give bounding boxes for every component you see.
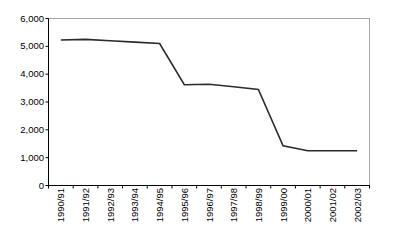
x-axis-tick-label: 1994/95 [155,188,165,222]
x-axis-tick-label: 1999/00 [279,188,289,222]
x-axis-tick-label: 1993/94 [130,188,140,222]
x-axis-tick-label: 1991/92 [81,188,91,222]
x-axis-tick-label: 1997/98 [229,188,239,222]
x-axis-tick-label: 1990/91 [56,188,66,222]
x-axis-tick-labels: 1990/911991/921992/931993/941994/951995/… [0,0,410,246]
x-axis-tick-label: 1992/93 [106,188,116,222]
line-chart: 01,0002,0003,0004,0005,0006,000 1990/911… [0,0,410,246]
x-axis-tick-label: 1998/99 [254,188,264,222]
x-axis-tick-label: 1995/96 [180,188,190,222]
x-axis-tick-label: 1996/97 [205,188,215,222]
x-axis-tick-label: 2002/03 [353,188,363,222]
x-axis-tick-label: 2000/01 [303,188,313,222]
x-axis-tick-label: 2001/02 [328,188,338,222]
